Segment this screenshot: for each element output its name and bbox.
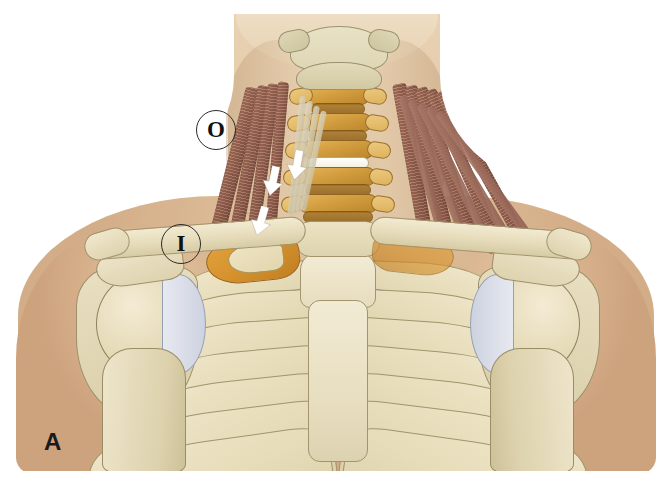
illustration-canvas: O I A	[0, 0, 671, 483]
origin-marker-label: O	[207, 117, 225, 143]
humerus-shaft-right	[490, 348, 574, 471]
panel-label: A	[44, 428, 61, 456]
insertion-marker: I	[161, 224, 201, 264]
sternum-body	[308, 300, 368, 462]
origin-marker: O	[196, 110, 236, 150]
vertebra-c7	[296, 221, 380, 257]
background-cutout-left	[0, 0, 234, 196]
anatomical-plate: O I A	[0, 0, 671, 471]
insertion-marker-label: I	[177, 231, 186, 257]
humerus-shaft-left	[102, 348, 186, 471]
axis-vertebra	[296, 62, 382, 90]
background-cutout-top	[0, 0, 671, 14]
